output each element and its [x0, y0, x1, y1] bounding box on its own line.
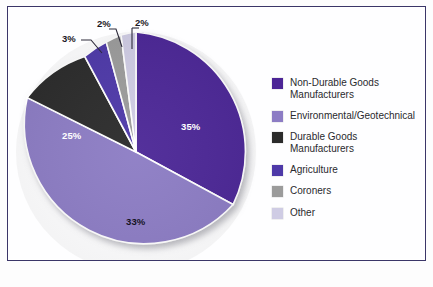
pie-callout-label-other: 2%: [135, 17, 149, 28]
pie-label-environmental-geotechnical: 33%: [126, 216, 145, 227]
legend-item-label: Other: [290, 207, 315, 219]
legend-item-coroners: Coroners: [272, 185, 426, 197]
chart-panel: 35% 33% 25% 3% 2% 2% Non-Durable Goods M…: [7, 6, 426, 261]
pie-chart: 35% 33% 25%: [14, 11, 260, 259]
pie-label-non-durable-goods-manufacturers: 35%: [181, 121, 200, 132]
legend-item-non-durable-goods-manufacturers: Non-Durable Goods Manufacturers: [272, 77, 426, 100]
legend-item-label: Non-Durable Goods Manufacturers: [290, 77, 379, 100]
legend-item-label: Agriculture: [290, 164, 338, 176]
legend-item-label: Coroners: [290, 185, 331, 197]
pie-label-durable-goods-manufacturers: 25%: [62, 130, 81, 141]
figure-caption-text: [9, 272, 429, 281]
legend-swatch-icon: [272, 111, 283, 122]
legend-swatch-icon: [272, 78, 283, 89]
figure-caption: [9, 272, 429, 286]
pie-callout-label-agriculture: 3%: [62, 33, 76, 44]
legend-item-agriculture: Agriculture: [272, 164, 426, 176]
legend-swatch-icon: [272, 132, 283, 143]
legend-swatch-icon: [272, 186, 283, 197]
figure-container: 35% 33% 25% 3% 2% 2% Non-Durable Goods M…: [0, 0, 433, 287]
legend-swatch-icon: [272, 208, 283, 219]
legend-item-environmental-geotechnical: Environmental/Geotechnical: [272, 110, 426, 122]
legend-item-other: Other: [272, 207, 426, 219]
legend-item-label: Durable Goods Manufacturers: [290, 131, 357, 154]
pie-callout-label-coroners: 2%: [97, 18, 111, 29]
legend-item-durable-goods-manufacturers: Durable Goods Manufacturers: [272, 131, 426, 154]
chart-legend: Non-Durable Goods Manufacturers Environm…: [272, 77, 426, 228]
legend-item-label: Environmental/Geotechnical: [290, 110, 415, 122]
legend-swatch-icon: [272, 165, 283, 176]
